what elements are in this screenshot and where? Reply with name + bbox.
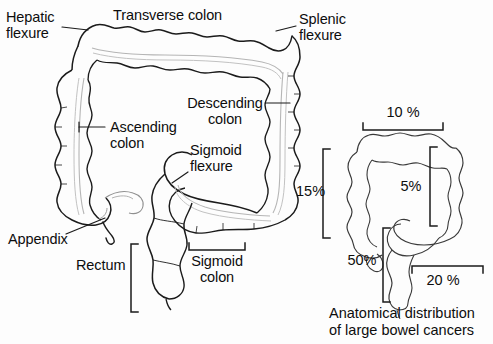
label-appendix: Appendix [8,232,68,248]
label-sigmoid-colon-line1: Sigmoid [191,253,243,269]
leader-hepatic-flexure [62,27,88,30]
hepatic-flexure-inner-curve [88,60,97,80]
label-50-percent: 50% [341,252,383,268]
leader-sigmoid-flexure [172,172,188,183]
label-transverse-colon: Transverse colon [113,8,222,24]
appendix-shape [103,222,114,244]
distribution-colon-group [347,133,463,319]
distribution-caption: Anatomical distributionof large bowel ca… [329,305,475,338]
label-20-percent: 20 % [418,272,468,288]
label-rectum: Rectum [76,258,125,274]
dist-transverse-upper [357,133,456,152]
label-20-percent-text: 20 % [426,272,459,288]
label-hepatic-flexure-line2: flexure [6,25,49,41]
dist-transverse-lower [372,160,447,169]
label-50-percent-text: 50% [347,252,376,268]
sigmoid-colon-haustra-ticks [196,223,254,233]
label-rectum-text: Rectum [76,257,125,273]
distribution-caption-line1: Anatomical distribution [329,305,475,321]
transverse-colon-lumen-line-1 [92,48,283,74]
descending-colon-haustra-ticks [288,76,300,166]
cecum-inner [99,208,107,219]
label-5-percent-text: 5% [401,178,422,194]
ileum-stub-detail [112,196,133,199]
figure-canvas: Hepaticflexure Transverse colon Splenicf… [0,0,493,344]
ascending-colon-lumen-line-1 [79,78,84,214]
label-descending-colon: Descendingcolon [186,96,264,127]
dist-descending-outer [450,148,463,239]
label-sigmoid-flexure: Sigmoidflexure [190,143,242,174]
dist-rectum-right [399,255,414,310]
label-10-percent-text: 10 % [386,104,419,120]
label-ascending-colon-line1: Ascending [110,119,177,135]
label-splenic-flexure-line1: Splenic [299,11,346,27]
dist-sigmoid-upper [394,219,450,245]
label-10-percent: 10 % [379,104,427,120]
label-hepatic-flexure: Hepaticflexure [6,10,54,41]
anatomy-illustration [0,0,493,344]
label-descending-colon-line1: Descending [187,95,263,111]
hepatic-flexure-curve [72,46,78,70]
dist-sigmoid-lower [387,224,439,256]
label-splenic-flexure-line2: flexure [299,27,342,43]
bracket-rectum [131,244,138,312]
dist-rectum-left [387,250,399,310]
dist-ascending-outer [347,152,382,258]
leader-lines-group [62,26,296,234]
label-sigmoid-flexure-line2: flexure [190,158,233,174]
bracket-5-percent [430,147,437,226]
label-transverse-colon-text: Transverse colon [113,7,222,23]
label-appendix-text: Appendix [8,231,68,247]
ascending-colon-lumen-line-2 [74,78,79,215]
label-splenic-flexure: Splenicflexure [299,12,346,43]
leader-splenic-flexure [276,26,296,31]
dist-ascending-inner [366,160,377,247]
transverse-colon-upper-border [78,24,292,51]
bracket-sigmoid-colon [189,243,245,250]
label-sigmoid-colon: Sigmoidcolon [188,254,246,285]
transverse-colon-lumen-line-2 [93,53,281,79]
label-descending-colon-line2: colon [208,111,242,127]
bracket-10-percent [363,123,443,130]
ascending-colon-inner-border [87,80,101,220]
label-sigmoid-flexure-line1: Sigmoid [190,142,242,158]
label-ascending-colon: Ascendingcolon [110,120,177,151]
rectum-left-border [147,174,169,299]
descending-colon-lumen-line-2 [278,72,288,215]
label-15-percent-text: 15% [296,183,325,199]
label-5-percent: 5% [392,178,430,194]
anal-canal [166,299,171,310]
sigmoid-colon-lumen-line-1 [178,185,270,216]
label-ascending-colon-line2: colon [110,135,144,151]
label-hepatic-flexure-line1: Hepatic [6,9,54,25]
descending-colon-lumen-line-1 [273,72,283,213]
label-15-percent: 15% [296,183,325,199]
distribution-caption-line2: of large bowel cancers [329,322,474,338]
dist-descending-inner [439,169,451,238]
label-sigmoid-colon-line2: colon [200,269,234,285]
